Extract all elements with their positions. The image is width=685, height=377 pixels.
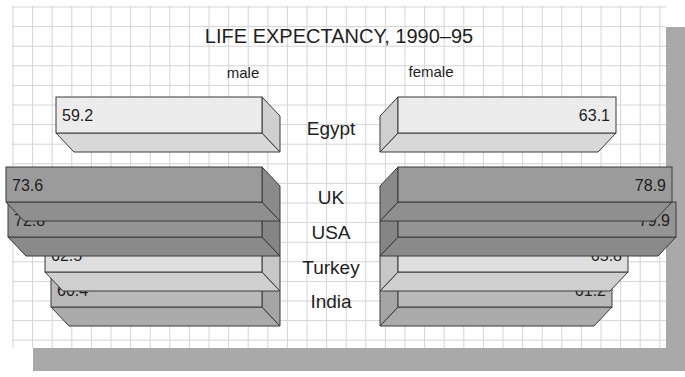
category-label-india: India [310, 291, 352, 312]
male-bar-bottom [51, 307, 280, 326]
female-bar-bottom [380, 272, 628, 291]
male-bar-bottom [45, 272, 280, 291]
female-bar-bottom [380, 307, 612, 326]
male-bar-bottom [8, 237, 280, 256]
male-bar-bottom [6, 202, 280, 221]
chart-figure: LIFE EXPECTANCY, 1990–95 male female 59.… [0, 0, 685, 377]
female-bar-bottom [380, 133, 616, 152]
female-bar-uk [398, 167, 672, 202]
chart-title: LIFE EXPECTANCY, 1990–95 [205, 25, 473, 47]
female-value-label: 78.9 [635, 177, 666, 194]
male-bar-uk [6, 167, 262, 202]
category-label-uk: UK [318, 187, 345, 208]
legend-female-label: female [408, 63, 453, 80]
female-value-label: 63.1 [579, 107, 610, 124]
category-label-egypt: Egypt [307, 118, 356, 139]
female-bar-bottom [380, 202, 672, 221]
legend-male-label: male [227, 64, 260, 81]
category-label-usa: USA [311, 222, 350, 243]
male-bar-bottom [56, 133, 280, 152]
female-bar-bottom [380, 237, 676, 256]
life-expectancy-chart: LIFE EXPECTANCY, 1990–95 male female 59.… [0, 0, 685, 377]
male-value-label: 73.6 [12, 177, 43, 194]
male-value-label: 59.2 [62, 107, 93, 124]
category-label-turkey: Turkey [302, 257, 360, 278]
